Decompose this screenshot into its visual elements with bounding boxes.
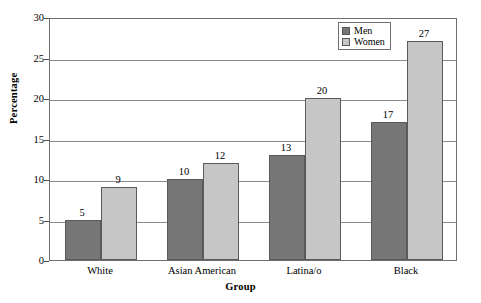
bar-value-label: 27 [406, 28, 442, 39]
bar-chart: Percentage 051015202530 MenWomen WhiteAs… [0, 0, 481, 303]
y-tick-label: 20 [8, 94, 44, 104]
bar-value-label: 20 [304, 85, 340, 96]
bar-latina-o-women [305, 98, 341, 260]
bar-latina-o-men [269, 155, 305, 260]
legend-label: Women [354, 36, 385, 47]
bar-asian-american-men [167, 179, 203, 260]
y-axis-ticks: 051015202530 [0, 0, 44, 303]
bar-asian-american-women [203, 163, 239, 260]
y-tick-label: 15 [8, 135, 44, 145]
y-tick-mark [44, 261, 49, 262]
legend-swatch-icon [342, 38, 350, 46]
y-tick-label: 5 [8, 216, 44, 226]
bar-black-men [371, 122, 407, 260]
x-axis-title: Group [0, 281, 481, 292]
bar-value-label: 13 [268, 142, 304, 153]
legend-label: Men [354, 25, 372, 36]
y-tick-label: 30 [8, 13, 44, 23]
x-category-label: Black [346, 265, 466, 277]
bar-value-label: 17 [370, 109, 406, 120]
y-tick-label: 0 [8, 256, 44, 266]
y-tick-label: 10 [8, 175, 44, 185]
bar-white-men [65, 220, 101, 261]
plot-area: MenWomen [49, 18, 457, 261]
bar-white-women [101, 187, 137, 260]
legend: MenWomen [338, 22, 391, 50]
y-tick-label: 25 [8, 54, 44, 64]
legend-item: Women [342, 36, 385, 47]
bar-black-women [407, 41, 443, 260]
bar-value-label: 12 [202, 150, 238, 161]
bar-value-label: 10 [166, 166, 202, 177]
gridline [50, 100, 456, 101]
legend-swatch-icon [342, 27, 350, 35]
bar-value-label: 5 [64, 207, 100, 218]
legend-item: Men [342, 25, 385, 36]
bar-value-label: 9 [100, 174, 136, 185]
gridline [50, 60, 456, 61]
